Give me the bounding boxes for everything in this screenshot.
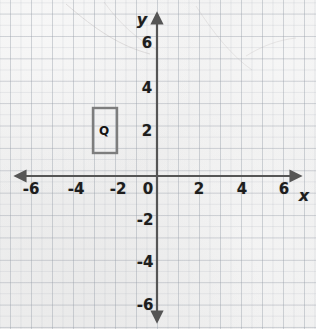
x-tick-label-2: 2: [194, 182, 204, 197]
y-axis-label: y: [137, 12, 147, 28]
x-tick-label--2: -2: [110, 182, 127, 197]
y-tick-label-6: 6: [142, 36, 152, 51]
y-tick-label--6: -6: [137, 298, 154, 313]
y-tick-label-2: 2: [142, 124, 152, 139]
x-tick-label--6: -6: [23, 182, 40, 197]
origin-label: 0: [143, 182, 153, 197]
y-tick-label--2: -2: [137, 213, 154, 228]
axes-layer: [0, 0, 316, 329]
rectangle-Q-label: Q: [99, 125, 109, 137]
y-tick-label--4: -4: [137, 255, 154, 270]
x-tick-label-6: 6: [279, 182, 289, 197]
coordinate-plane-figure: -6 -4 -2 2 4 6 0 6 4 2 -2 -4 -6 y x Q: [0, 0, 316, 329]
x-tick-label--4: -4: [68, 182, 85, 197]
x-tick-label-4: 4: [237, 182, 247, 197]
y-tick-label-4: 4: [142, 81, 152, 96]
x-axis-label: x: [299, 188, 309, 204]
